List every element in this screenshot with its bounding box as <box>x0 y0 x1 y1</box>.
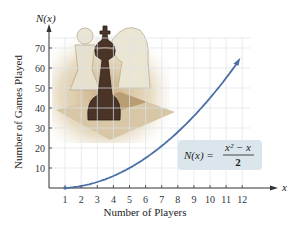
y-axis-title: Number of Games Played <box>12 55 24 169</box>
y-tick-label: 40 <box>35 103 45 114</box>
chart: 12345678910111210203040506070xN(x)Number… <box>0 0 290 229</box>
y-tick-label: 20 <box>35 143 45 154</box>
x-tick-label: 7 <box>159 194 164 205</box>
formula-lhs: N(x) = <box>183 149 214 162</box>
x-tick-label: 3 <box>95 194 100 205</box>
x-tick-label: 2 <box>79 194 84 205</box>
x-tick-label: 5 <box>127 194 132 205</box>
y-tick-label: 50 <box>35 83 45 94</box>
data-point <box>63 186 67 190</box>
pawn-head <box>77 28 93 44</box>
x-tick-label: 1 <box>63 194 68 205</box>
x-axis-arrow-icon <box>270 186 278 191</box>
y-tick-label: 70 <box>35 43 45 54</box>
x-tick-label: 6 <box>143 194 148 205</box>
y-tick-label: 10 <box>35 163 45 174</box>
y-tick-label: 30 <box>35 123 45 134</box>
x-tick-label: 12 <box>237 194 247 205</box>
y-axis-arrow-icon <box>47 24 52 32</box>
formula-numerator: x² − x <box>224 141 251 153</box>
x-tick-label: 10 <box>205 194 215 205</box>
x-tick-label: 9 <box>191 194 196 205</box>
x-tick-label: 11 <box>221 194 231 205</box>
y-tick-label: 60 <box>35 63 45 74</box>
x-axis-title: Number of Players <box>103 206 186 218</box>
x-tick-label: 8 <box>175 194 180 205</box>
y-axis-symbol: N(x) <box>35 12 56 25</box>
formula-denominator: 2 <box>235 156 241 168</box>
curve-arrow-icon <box>233 58 240 66</box>
x-tick-label: 4 <box>111 194 116 205</box>
x-axis-symbol: x <box>281 181 287 193</box>
